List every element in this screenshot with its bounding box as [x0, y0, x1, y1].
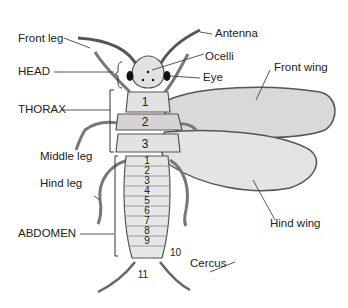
thorax-segment-2 — [116, 114, 182, 130]
left-cercus — [98, 262, 135, 292]
right-eye — [164, 71, 171, 81]
label-cercus: Cercus — [190, 258, 226, 270]
thorax-number-3: 3 — [142, 137, 149, 151]
left-eye — [127, 71, 134, 81]
thorax-number-1: 1 — [142, 95, 149, 109]
abdomen-bracket — [115, 156, 118, 256]
abdomen-number-9: 9 — [144, 235, 150, 246]
label-thorax: THORAX — [18, 104, 66, 116]
left-antenna — [78, 38, 138, 68]
thorax-number-2: 2 — [142, 115, 149, 129]
abdomen-number-10: 10 — [170, 247, 182, 258]
label-antenna: Antenna — [215, 28, 258, 40]
label-ocelli: Ocelli — [205, 51, 234, 63]
label-head: HEAD — [18, 66, 50, 78]
label-front-wing: Front wing — [274, 62, 328, 74]
label-front-leg: Front leg — [18, 33, 63, 45]
abdomen-number-11: 11 — [138, 269, 149, 280]
insect-diagram: 1 2 3 1 2 3 4 5 6 7 8 9 10 11 Front leg … — [0, 0, 348, 308]
label-eye: Eye — [203, 72, 223, 84]
label-middle-leg: Middle leg — [40, 151, 92, 163]
right-antenna — [158, 30, 200, 68]
label-hind-leg: Hind leg — [40, 178, 82, 190]
label-abdomen: ABDOMEN — [18, 228, 76, 240]
right-cercus — [160, 262, 190, 290]
label-hind-wing: Hind wing — [270, 218, 321, 230]
